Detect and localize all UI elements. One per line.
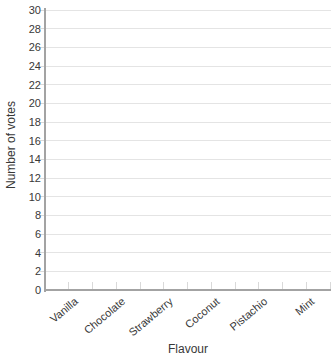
y-tick-label-8: 8 bbox=[35, 209, 41, 221]
x-axis-line bbox=[44, 289, 331, 291]
gridline-y-10 bbox=[46, 196, 331, 197]
x-axis-minor-tick bbox=[282, 282, 283, 289]
x-axis-minor-tick bbox=[163, 282, 164, 289]
y-tick-label-16: 16 bbox=[29, 135, 41, 147]
x-axis-minor-tick bbox=[140, 282, 141, 289]
y-tick-label-26: 26 bbox=[29, 41, 41, 53]
gridline-y-26 bbox=[46, 47, 331, 48]
y-tick-label-4: 4 bbox=[35, 247, 41, 259]
x-axis-title: Flavour bbox=[45, 342, 331, 356]
gridline-y-12 bbox=[46, 178, 331, 179]
gridline-y-14 bbox=[46, 159, 331, 160]
category-label-chocolate: Chocolate bbox=[81, 295, 127, 336]
gridline-y-24 bbox=[46, 66, 331, 67]
x-axis-minor-tick bbox=[211, 282, 212, 289]
y-tick-label-2: 2 bbox=[35, 265, 41, 277]
y-tick-label-12: 12 bbox=[29, 172, 41, 184]
x-axis-minor-tick bbox=[330, 282, 331, 289]
gridline-y-2 bbox=[46, 271, 331, 272]
y-tick-label-0: 0 bbox=[35, 284, 41, 296]
x-axis-minor-tick bbox=[92, 282, 93, 289]
gridline-y-4 bbox=[46, 252, 331, 253]
y-tick-label-20: 20 bbox=[29, 97, 41, 109]
category-label-strawberry: Strawberry bbox=[126, 295, 174, 338]
gridline-y-6 bbox=[46, 234, 331, 235]
y-tick-label-24: 24 bbox=[29, 60, 41, 72]
x-axis-minor-tick bbox=[68, 282, 69, 289]
y-tick-label-18: 18 bbox=[29, 116, 41, 128]
category-label-vanilla: Vanilla bbox=[47, 295, 79, 325]
y-axis-line bbox=[44, 8, 46, 292]
category-label-pistachio: Pistachio bbox=[228, 295, 270, 333]
gridline-y-18 bbox=[46, 122, 331, 123]
y-tick-label-30: 30 bbox=[29, 4, 41, 16]
gridline-y-20 bbox=[46, 103, 331, 104]
y-tick-label-10: 10 bbox=[29, 191, 41, 203]
y-axis-title: Number of votes bbox=[4, 85, 18, 205]
gridline-y-30 bbox=[46, 10, 331, 11]
y-tick-label-22: 22 bbox=[29, 79, 41, 91]
category-label-coconut: Coconut bbox=[183, 295, 222, 331]
gridline-y-22 bbox=[46, 84, 331, 85]
y-tick-label-14: 14 bbox=[29, 153, 41, 165]
y-tick-label-6: 6 bbox=[35, 228, 41, 240]
y-tick-label-28: 28 bbox=[29, 23, 41, 35]
gridline-y-16 bbox=[46, 140, 331, 141]
gridline-y-8 bbox=[46, 215, 331, 216]
x-axis-minor-tick bbox=[187, 282, 188, 289]
gridline-y-28 bbox=[46, 28, 331, 29]
x-axis-minor-tick bbox=[258, 282, 259, 289]
x-axis-minor-tick bbox=[306, 282, 307, 289]
category-label-mint: Mint bbox=[293, 295, 317, 318]
x-axis-minor-tick bbox=[235, 282, 236, 289]
x-axis-minor-tick bbox=[116, 282, 117, 289]
bar-chart-grid: Number of votes Flavour 0246810121416182… bbox=[0, 0, 336, 363]
